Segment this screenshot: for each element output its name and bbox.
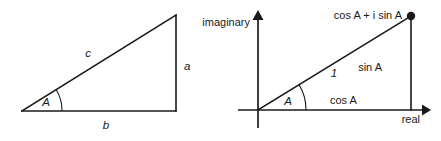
unit-radius-label: 1 <box>331 67 337 79</box>
complex-point-dot <box>407 12 415 20</box>
trigonometry-figure: c a b A imaginary real cos A + i sin A <box>0 0 441 141</box>
left-triangle-group: c a b A <box>22 15 190 131</box>
triangle-angle-arc <box>56 89 62 111</box>
complex-plane-group: imaginary real cos A + i sin A 1 sin A c… <box>202 9 431 128</box>
real-axis-arrowhead <box>422 105 431 116</box>
hypotenuse-label: c <box>85 47 91 59</box>
real-axis-label: real <box>402 113 420 125</box>
imaginary-axis-label: imaginary <box>202 16 250 28</box>
complex-angle-arc <box>299 84 306 110</box>
cos-leg-label: cos A <box>330 94 358 106</box>
figure-canvas: c a b A imaginary real cos A + i sin A <box>0 0 441 141</box>
complex-angle-label: A <box>283 95 292 107</box>
triangle-angle-label: A <box>41 96 50 108</box>
sin-leg-label: sin A <box>358 61 383 73</box>
complex-point-label: cos A + i sin A <box>334 9 403 21</box>
imaginary-axis-arrowhead <box>253 10 264 20</box>
opposite-side-label: a <box>184 60 190 72</box>
adjacent-side-label: b <box>103 119 110 131</box>
